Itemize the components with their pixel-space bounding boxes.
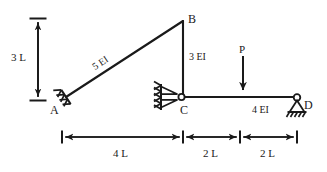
horizontal-dimension-label-1: 4 L bbox=[113, 148, 128, 159]
member-label-bc-stiffness: 3 EI bbox=[189, 52, 206, 62]
member-ab bbox=[66, 21, 183, 97]
frame-diagram-svg bbox=[0, 0, 327, 172]
node-label-a: A bbox=[50, 104, 59, 116]
horizontal-dimension-chain bbox=[62, 131, 297, 144]
load-label-p: P bbox=[239, 44, 245, 55]
node-label-c: C bbox=[180, 104, 188, 116]
vertical-dimension-label: 3 L bbox=[11, 52, 26, 63]
horizontal-dimension-label-3: 2 L bbox=[260, 148, 275, 159]
member-label-cd-stiffness: 4 EI bbox=[252, 105, 269, 115]
node-label-b: B bbox=[188, 13, 196, 25]
structural-diagram-figure: A B C D 5 EI 3 EI 4 EI P 3 L 4 L 2 L 2 L bbox=[0, 0, 327, 172]
horizontal-dimension-label-2: 2 L bbox=[203, 148, 218, 159]
node-label-d: D bbox=[304, 99, 313, 111]
vertical-dimension-3l bbox=[30, 19, 47, 101]
